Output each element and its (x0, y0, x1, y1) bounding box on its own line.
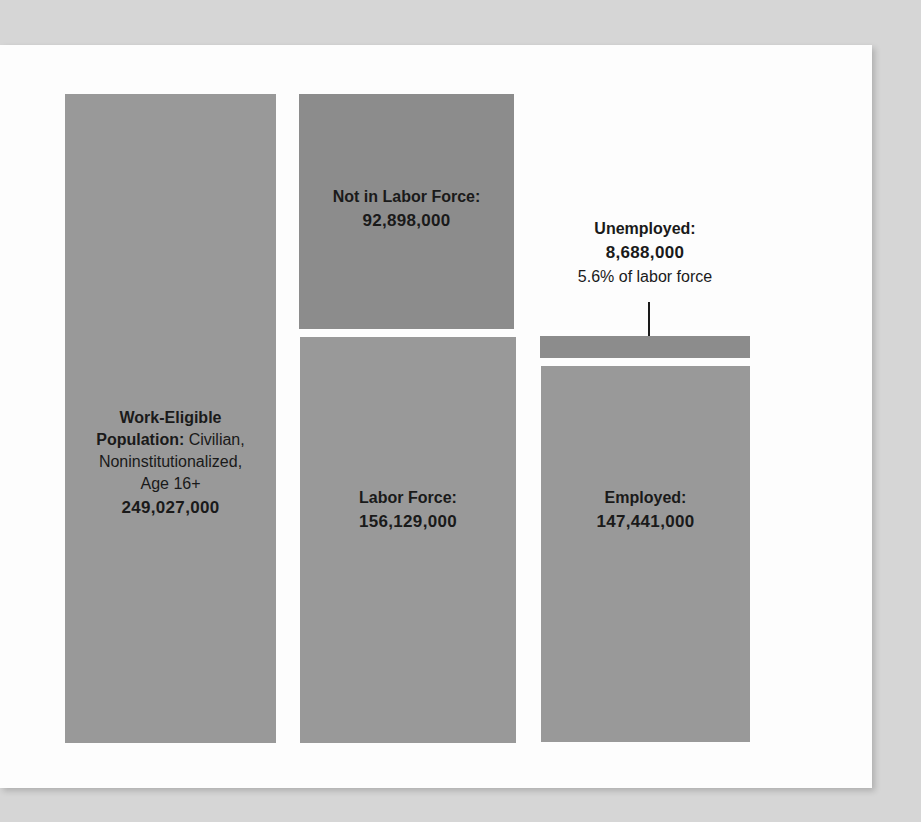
population-line4: Age 16+ (140, 473, 200, 495)
employed-value: 147,441,000 (597, 509, 695, 535)
population-value: 249,027,000 (122, 495, 220, 521)
not-in-labor-force-value: 92,898,000 (362, 208, 450, 234)
population-title: Work-Eligible (120, 407, 222, 429)
not-in-labor-force-label: Not in Labor Force: (333, 186, 481, 208)
population-label-regular: Civilian, (184, 431, 244, 448)
unemployed-callout: Unemployed: 8,688,000 5.6% of labor forc… (540, 218, 750, 288)
bar-work-eligible-population: Work-Eligible Population: Civilian, Noni… (65, 94, 276, 743)
population-line2: Population: Civilian, (96, 429, 244, 451)
bar-employed: Employed: 147,441,000 (541, 366, 750, 742)
labor-force-label: Labor Force: (359, 487, 457, 509)
unemployed-value: 8,688,000 (606, 240, 684, 266)
bar-not-in-labor-force: Not in Labor Force: 92,898,000 (299, 94, 514, 329)
unemployed-percent: 5.6% of labor force (578, 266, 712, 288)
population-label-bold: Population: (96, 431, 184, 448)
labor-force-value: 156,129,000 (359, 509, 457, 535)
bar-labor-force: Labor Force: 156,129,000 (300, 337, 516, 743)
bar-unemployed (540, 336, 750, 358)
unemployed-label: Unemployed: (594, 218, 695, 240)
employed-label: Employed: (605, 487, 687, 509)
population-line3: Noninstitutionalized, (99, 451, 242, 473)
